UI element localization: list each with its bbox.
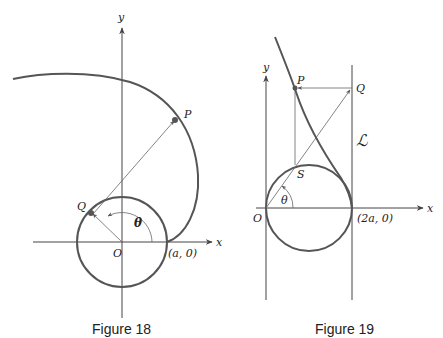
figure-18: x y θ P Q O (a, 0) Figure 18 — [13, 11, 223, 337]
cissoid-curve — [275, 37, 352, 208]
x-axis-label: x — [427, 202, 434, 215]
caption: Figure 18 — [92, 321, 151, 337]
figures-canvas: x y θ P Q O (a, 0) Figure 18 x y ℒ — [0, 0, 443, 338]
caption: Figure 19 — [315, 321, 374, 337]
y-axis-label: y — [262, 61, 270, 74]
y-axis-label: y — [117, 11, 125, 24]
point-q-label: Q — [77, 200, 86, 213]
point-p-label: P — [183, 108, 192, 121]
figure-19: x y ℒ θ P Q S O (2a, 0) Figure 19 — [253, 37, 434, 337]
point-p-label: P — [296, 74, 305, 87]
theta-label: θ — [134, 216, 142, 230]
curve — [13, 74, 198, 242]
origin-label: O — [253, 212, 262, 225]
vector-oq — [93, 214, 122, 242]
intercept-label: (2a, 0) — [357, 212, 393, 225]
origin-label: O — [113, 247, 122, 260]
intercept-label: (a, 0) — [168, 247, 197, 260]
ray-oq — [266, 90, 350, 208]
line-l-label: ℒ — [356, 131, 368, 150]
point-s-label: S — [297, 168, 305, 181]
vector-qp — [93, 121, 174, 214]
point-q — [88, 210, 94, 216]
angle-arc — [108, 213, 152, 242]
theta-label: θ — [281, 194, 288, 207]
point-q-label: Q — [356, 82, 365, 95]
point-p — [172, 117, 178, 123]
x-axis-label: x — [216, 236, 223, 249]
